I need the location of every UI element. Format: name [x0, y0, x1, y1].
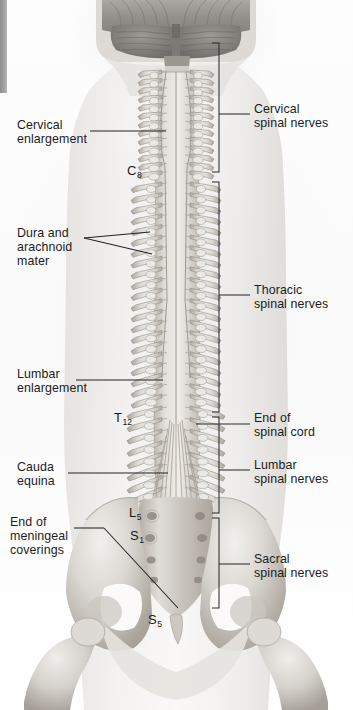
vertebra-label-l5: L5 [129, 505, 141, 520]
label-end-of-spinal-cord: End ofspinal cord [254, 411, 315, 439]
label-cervical-enlargement: Cervicalenlargement [17, 118, 87, 146]
figure-canvas: Cervicalenlargement Dura andarachnoidmat… [0, 0, 353, 710]
label-sacral-spinal-nerves: Sacralspinal nerves [254, 552, 328, 580]
label-cauda-equina: Caudaequina [17, 460, 55, 488]
vertebra-label-c8: C8 [127, 163, 141, 178]
label-end-of-meningeal-coverings: End ofmeningealcoverings [10, 515, 68, 558]
label-lumbar-spinal-nerves: Lumbarspinal nerves [254, 458, 328, 486]
label-cervical-spinal-nerves: Cervicalspinal nerves [254, 102, 328, 130]
vertebra-label-s5: S5 [148, 612, 161, 627]
label-thoracic-spinal-nerves: Thoracicspinal nerves [254, 283, 328, 311]
label-lumbar-enlargement: Lumbarenlargement [17, 367, 87, 395]
label-dura-arachnoid-mater: Dura andarachnoidmater [17, 226, 72, 269]
vertebra-label-t12: T12 [114, 410, 132, 425]
vertebra-label-s1: S1 [130, 528, 143, 543]
